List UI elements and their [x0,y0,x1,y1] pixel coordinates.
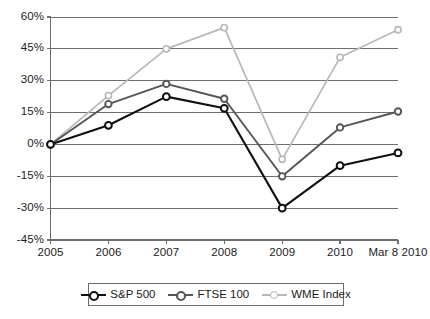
line-chart: 60%45%30%15%0%-15%-30%-45% 2005200620072… [0,0,430,319]
chart-legend: S&P 500 FTSE 100 WME Index [88,283,344,306]
y-axis-label: 30% [0,73,44,85]
y-axis-label: -45% [0,233,44,245]
y-axis-label: 60% [0,10,44,22]
chart-plot-area [0,0,430,319]
x-axis-label: 2007 [138,246,194,258]
x-axis-label: Mar 8 2010 [361,246,430,258]
legend-item-sp500[interactable]: S&P 500 [81,289,155,301]
legend-label-ftse100: FTSE 100 [197,289,249,301]
legend-marker-wme-index-icon [262,289,287,300]
legend-marker-sp500-icon [81,289,106,300]
gridlines [51,17,399,240]
x-axis-label: 2010 [312,246,368,258]
y-axis-label: 45% [0,41,44,53]
legend-item-ftse100[interactable]: FTSE 100 [168,289,249,301]
y-axis-label: -30% [0,201,44,213]
legend-label-sp500: S&P 500 [110,289,155,301]
legend-item-wme-index[interactable]: WME Index [262,289,350,301]
y-axis-label: 15% [0,105,44,117]
series-lines [51,28,399,209]
legend-label-wme-index: WME Index [291,289,350,301]
y-axis-label: -15% [0,169,44,181]
x-axis-label: 2009 [254,246,310,258]
x-axis-label: 2005 [23,246,79,258]
y-axis-label: 0% [0,137,44,149]
x-axis-label: 2006 [80,246,136,258]
x-axis-label: 2008 [196,246,252,258]
legend-marker-ftse100-icon [168,289,193,300]
